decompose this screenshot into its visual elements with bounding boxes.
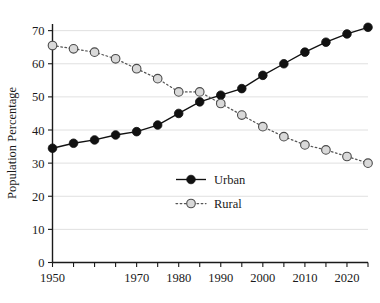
data-point-rural-2015 (322, 146, 331, 155)
data-point-urban-1985 (195, 98, 204, 107)
legend-item-label-rural: Rural (214, 197, 242, 211)
y-tick-label-30: 30 (32, 157, 45, 171)
data-point-rural-1985 (195, 88, 204, 97)
data-point-rural-2000 (259, 122, 268, 131)
y-tick-label-60: 60 (32, 57, 45, 71)
data-point-urban-2025 (364, 23, 373, 32)
data-point-urban-2015 (322, 38, 331, 47)
legend-rural-marker (187, 199, 196, 208)
x-tick-label-1970: 1970 (124, 271, 149, 285)
y-tick-label-40: 40 (32, 124, 45, 138)
data-point-urban-1970 (132, 127, 141, 136)
series-line-rural (53, 46, 369, 164)
data-point-rural-1950 (48, 41, 57, 50)
x-axis-tick-labels: 1950197019801990200020102020 (40, 271, 359, 285)
data-point-urban-1980 (174, 109, 183, 118)
data-point-urban-1960 (90, 136, 99, 145)
data-point-rural-2010 (301, 141, 310, 150)
data-point-urban-2000 (259, 71, 268, 80)
data-point-rural-2005 (280, 132, 289, 141)
x-tick-label-2020: 2020 (334, 271, 359, 285)
legend-urban-marker (187, 175, 196, 184)
y-tick-label-70: 70 (32, 24, 45, 38)
y-axis-title: Population Percentage (5, 86, 19, 199)
y-tick-label-0: 0 (38, 256, 44, 270)
data-point-urban-1990 (216, 91, 225, 100)
data-point-rural-1975 (153, 74, 162, 83)
gridlines-group (53, 31, 369, 230)
data-point-urban-2010 (301, 48, 310, 57)
data-point-urban-2020 (343, 30, 352, 39)
chart-legend: Urban Rural (176, 173, 246, 211)
x-tick-label-1950: 1950 (40, 271, 65, 285)
data-series-group (48, 23, 372, 167)
series-urban (48, 23, 372, 153)
data-point-urban-2005 (280, 59, 289, 68)
axes-group (53, 24, 369, 263)
x-tick-label-2010: 2010 (292, 271, 317, 285)
data-point-urban-1995 (238, 84, 247, 93)
data-point-rural-2020 (343, 152, 352, 161)
data-point-rural-1955 (69, 45, 78, 54)
data-point-rural-1995 (238, 111, 247, 120)
x-tick-label-1990: 1990 (208, 271, 233, 285)
data-point-urban-1975 (153, 121, 162, 130)
data-point-urban-1955 (69, 139, 78, 148)
data-point-rural-1980 (174, 88, 183, 97)
y-tick-label-10: 10 (32, 223, 45, 237)
data-point-rural-2025 (364, 159, 373, 168)
data-point-rural-1970 (132, 64, 141, 73)
data-point-rural-1960 (90, 48, 99, 57)
chart-container: 010203040506070 195019701980199020002010… (0, 0, 380, 303)
data-point-urban-1965 (111, 131, 120, 140)
series-rural (48, 41, 372, 167)
y-tick-label-20: 20 (32, 190, 45, 204)
legend-item-label-urban: Urban (214, 173, 246, 187)
population-percentage-line-chart: 010203040506070 195019701980199020002010… (0, 0, 380, 303)
data-point-rural-1965 (111, 54, 120, 63)
data-point-urban-1950 (48, 144, 57, 153)
x-tick-label-2000: 2000 (250, 271, 275, 285)
data-point-rural-1990 (216, 99, 225, 108)
y-axis-tick-labels: 010203040506070 (32, 24, 45, 270)
y-tick-label-50: 50 (32, 90, 45, 104)
x-tick-label-1980: 1980 (166, 271, 191, 285)
